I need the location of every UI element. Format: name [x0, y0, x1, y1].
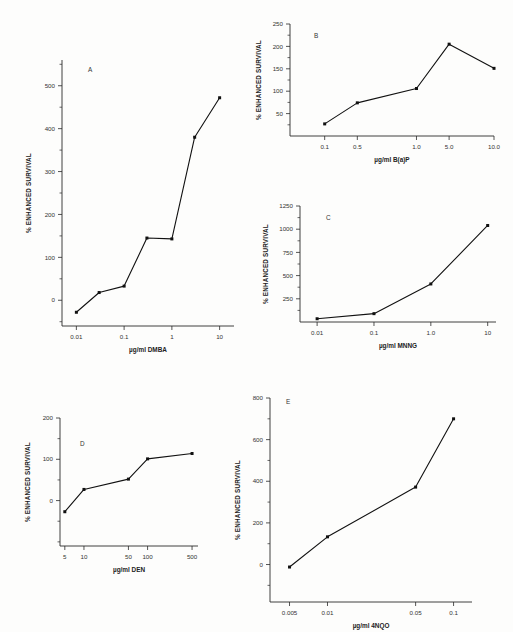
x-tick-label: 0.05	[410, 609, 423, 616]
y-tick-label: 100	[273, 87, 284, 94]
data-point	[356, 101, 359, 104]
y-tick-label: 500	[45, 82, 56, 89]
data-point	[429, 282, 432, 285]
data-point	[170, 237, 173, 240]
data-point	[127, 478, 130, 481]
y-tick-label: 100	[45, 254, 56, 261]
x-tick-label: 0.1	[370, 329, 379, 336]
x-tick-label: 1.0	[412, 143, 421, 150]
multi-panel-figure: 01002003004005000.010.1110µg/ml DMBA% EN…	[0, 0, 513, 632]
y-tick-label: 150	[273, 65, 284, 72]
panel-letter: D	[80, 440, 85, 447]
panel-letter: C	[326, 214, 331, 221]
data-series-line	[317, 225, 488, 318]
data-point	[82, 488, 85, 491]
y-tick-label: 250	[273, 20, 284, 27]
x-tick-label: 5	[63, 553, 67, 560]
data-point	[323, 122, 326, 125]
panel-c: 250500750100012500.010.11.010µg/ml MNNG%…	[248, 190, 506, 368]
y-tick-label: 200	[273, 43, 284, 50]
x-axis-title: µg/ml 4NQO	[353, 622, 390, 630]
data-point	[145, 237, 148, 240]
panel-d-plot: 010020051050100500µg/ml DEN% ENHANCED SU…	[12, 400, 220, 580]
x-tick-label: 0.01	[311, 329, 324, 336]
data-series-line	[76, 98, 219, 313]
panel-c-plot: 250500750100012500.010.11.010µg/ml MNNG%…	[248, 190, 506, 368]
panel-b-plot: 501001502002500.10.51.05.010.0µg/ml B(a)…	[248, 6, 506, 186]
data-point	[146, 457, 149, 460]
y-tick-label: 100	[43, 455, 54, 462]
x-tick-label: 50	[125, 553, 132, 560]
x-tick-label: 10	[216, 333, 223, 340]
x-tick-label: 0.1	[449, 609, 458, 616]
data-point	[75, 311, 78, 314]
data-point	[493, 67, 496, 70]
x-tick-label: 10	[81, 553, 88, 560]
x-tick-label: 0.5	[353, 143, 362, 150]
x-axis-title: µg/ml MNNG	[379, 342, 417, 350]
x-tick-label: 10	[484, 329, 491, 336]
y-tick-label: 200	[45, 211, 56, 218]
x-tick-label: 0.01	[321, 609, 334, 616]
x-tick-label: 0.1	[320, 143, 329, 150]
y-tick-label: 250	[283, 295, 294, 302]
panel-b: 501001502002500.10.51.05.010.0µg/ml B(a)…	[248, 6, 506, 186]
y-tick-label: 400	[253, 477, 264, 484]
x-axis-title: µg/ml DMBA	[129, 346, 167, 354]
y-axis-title: % ENHANCED SURVIVAL	[255, 40, 262, 120]
data-point	[218, 96, 221, 99]
y-tick-label: 200	[253, 519, 264, 526]
y-axis-title: % ENHANCED SURVIVAL	[234, 460, 241, 540]
y-tick-label: 800	[253, 394, 264, 401]
x-axis-title: µg/ml B(a)P	[374, 156, 410, 164]
data-point	[63, 510, 66, 513]
y-tick-label: 50	[276, 110, 283, 117]
x-tick-label: 10.0	[488, 143, 501, 150]
panel-letter: B	[314, 32, 318, 39]
data-point	[415, 87, 418, 90]
data-point	[486, 224, 489, 227]
y-tick-label: 400	[45, 125, 56, 132]
x-tick-label: 100	[142, 553, 153, 560]
y-axis-title: % ENHANCED SURVIVAL	[25, 153, 32, 233]
panel-a: 01002003004005000.010.1110µg/ml DMBA% EN…	[18, 42, 246, 372]
y-tick-label: 750	[283, 249, 294, 256]
y-axis-title: % ENHANCED SURVIVAL	[262, 224, 269, 304]
data-point	[452, 417, 455, 420]
data-series-line	[325, 44, 494, 124]
data-point	[123, 285, 126, 288]
x-tick-label: 1.0	[427, 329, 436, 336]
panel-e: 02004006008000.0050.010.050.1µg/ml 4NQO%…	[222, 386, 508, 626]
data-series-line	[290, 419, 454, 567]
data-point	[191, 452, 194, 455]
data-point	[414, 486, 417, 489]
x-tick-label: 0.01	[70, 333, 83, 340]
panel-letter: A	[88, 66, 93, 73]
panel-d: 010020051050100500µg/ml DEN% ENHANCED SU…	[12, 400, 220, 580]
x-tick-label: 1	[170, 333, 174, 340]
data-point	[372, 312, 375, 315]
y-tick-label: 300	[45, 168, 56, 175]
x-axis-title: µg/ml DEN	[113, 566, 145, 574]
data-series-line	[65, 454, 192, 512]
x-tick-label: 5.0	[445, 143, 454, 150]
data-point	[193, 136, 196, 139]
x-tick-label: 500	[187, 553, 198, 560]
x-tick-label: 0.005	[282, 609, 298, 616]
y-tick-label: 500	[283, 272, 294, 279]
y-tick-label: 0	[50, 497, 54, 504]
y-tick-label: 600	[253, 436, 264, 443]
y-tick-label: 200	[43, 414, 54, 421]
panel-a-plot: 01002003004005000.010.1110µg/ml DMBA% EN…	[18, 42, 246, 372]
data-point	[448, 43, 451, 46]
x-tick-label: 0.1	[120, 333, 129, 340]
y-tick-label: 0	[260, 561, 264, 568]
y-tick-label: 1250	[279, 202, 293, 209]
panel-letter: E	[286, 398, 290, 405]
y-tick-label: 0	[52, 296, 56, 303]
data-point	[326, 535, 329, 538]
panel-e-plot: 02004006008000.0050.010.050.1µg/ml 4NQO%…	[222, 386, 508, 626]
data-point	[288, 566, 291, 569]
y-axis-title: % ENHANCED SURVIVAL	[24, 442, 31, 522]
data-point	[316, 317, 319, 320]
